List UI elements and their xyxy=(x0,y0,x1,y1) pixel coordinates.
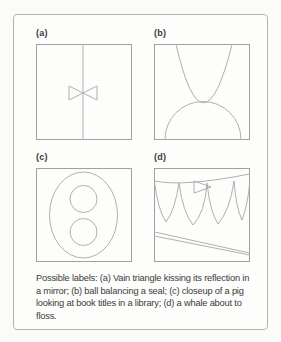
panel-b-frame xyxy=(155,45,250,140)
panel-c-label: (c) xyxy=(36,152,132,163)
ball-semicircle-arc xyxy=(165,102,241,140)
tooth-1 xyxy=(155,182,180,222)
tooth-2 xyxy=(179,183,207,225)
panel-a-label: (a) xyxy=(36,28,132,39)
triangle-left xyxy=(69,86,83,100)
panel-d: (d) xyxy=(154,152,250,262)
figure-card: (a) (b) (c) xyxy=(13,14,268,330)
panel-a: (a) xyxy=(36,28,132,140)
pig-snout-closeup-drawing xyxy=(36,168,132,262)
panel-c: (c) xyxy=(36,152,132,262)
panel-grid: (a) (b) (c) xyxy=(36,28,267,262)
panel-b: (b) xyxy=(154,28,250,140)
panel-b-label: (b) xyxy=(154,28,250,39)
triangle-kissing-reflection-drawing xyxy=(36,44,132,140)
floss-line-lower xyxy=(155,236,250,255)
tooth-4 xyxy=(234,181,250,220)
seal-parabola-curve xyxy=(176,45,232,103)
whale-about-to-floss-drawing xyxy=(154,168,250,262)
ball-balancing-seal-drawing xyxy=(154,44,250,140)
floss-line-upper xyxy=(155,232,250,253)
nostril-circle-bottom xyxy=(70,219,97,246)
gum-line xyxy=(155,174,250,183)
triangle-reflection-right xyxy=(83,86,97,100)
nostril-circle-top xyxy=(70,186,97,213)
panel-d-label: (d) xyxy=(154,152,250,163)
figure-caption: Possible labels: (a) Vain triangle kissi… xyxy=(36,272,253,322)
